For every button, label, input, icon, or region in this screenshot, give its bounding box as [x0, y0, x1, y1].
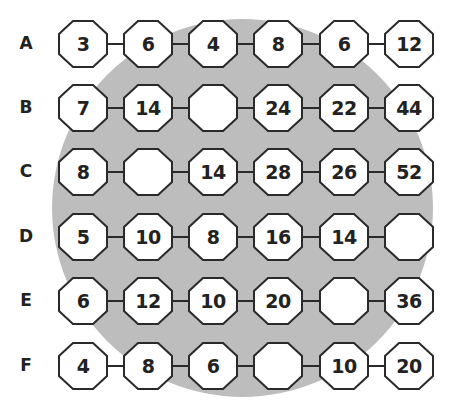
cell-value: 44 [384, 84, 434, 132]
cell-value: 10 [319, 342, 369, 390]
chain-connector [172, 236, 189, 238]
number-cell: 4 [188, 20, 238, 68]
number-cell: 22 [319, 84, 369, 132]
chain-connector [172, 107, 189, 109]
cell-value: 10 [123, 213, 173, 261]
chain-connector [302, 365, 320, 367]
chain-connector [302, 107, 320, 109]
chain-connector [237, 43, 254, 45]
chain-connector [172, 300, 189, 302]
cell-value: 7 [58, 84, 108, 132]
number-cell: 6 [188, 342, 238, 390]
number-cell: 44 [384, 84, 434, 132]
cell-value: 14 [188, 148, 238, 196]
blank-cell[interactable] [319, 277, 369, 325]
number-cell: 20 [253, 277, 303, 325]
blank-cell[interactable] [188, 84, 238, 132]
cell-value: 8 [123, 342, 173, 390]
number-cell: 7 [58, 84, 108, 132]
number-cell: 28 [253, 148, 303, 196]
row-label: A [18, 33, 34, 53]
chain-connector [107, 300, 124, 302]
chain-connector [302, 43, 320, 45]
puzzle-row-b: B714242244 [0, 84, 452, 132]
number-cell: 14 [123, 84, 173, 132]
number-cell: 3 [58, 20, 108, 68]
cell-value: 6 [188, 342, 238, 390]
cell-value: 4 [58, 342, 108, 390]
number-cell: 6 [319, 20, 369, 68]
cell-value: 52 [384, 148, 434, 196]
number-cell: 52 [384, 148, 434, 196]
cell-value: 36 [384, 277, 434, 325]
row-label: E [18, 290, 34, 310]
number-cell: 6 [123, 20, 173, 68]
number-cell: 8 [188, 213, 238, 261]
cell-value: 8 [58, 148, 108, 196]
chain-connector [237, 171, 254, 173]
number-cell: 8 [123, 342, 173, 390]
cell-value: 14 [319, 213, 369, 261]
cell-value: 5 [58, 213, 108, 261]
blank-cell[interactable] [253, 342, 303, 390]
chain-connector [172, 171, 189, 173]
row-label: D [18, 226, 34, 246]
chain-connector [237, 107, 254, 109]
number-cell: 5 [58, 213, 108, 261]
cell-value: 4 [188, 20, 238, 68]
cell-value: 28 [253, 148, 303, 196]
cell-value: 10 [188, 277, 238, 325]
cell-value [123, 148, 173, 196]
number-cell: 14 [319, 213, 369, 261]
puzzle-row-c: C814282652 [0, 148, 452, 196]
puzzle-row-a: A3648612 [0, 20, 452, 68]
number-cell: 16 [253, 213, 303, 261]
chain-connector [107, 236, 124, 238]
chain-connector [172, 365, 189, 367]
cell-value: 12 [384, 20, 434, 68]
number-cell: 6 [58, 277, 108, 325]
cell-value: 3 [58, 20, 108, 68]
number-cell: 36 [384, 277, 434, 325]
row-label: C [18, 161, 34, 181]
chain-connector [368, 236, 385, 238]
chain-connector [368, 300, 385, 302]
chain-connector [237, 365, 254, 367]
number-cell: 8 [58, 148, 108, 196]
number-cell: 10 [188, 277, 238, 325]
chain-connector [107, 107, 124, 109]
cell-value [188, 84, 238, 132]
cell-value: 14 [123, 84, 173, 132]
chain-connector [107, 365, 124, 367]
cell-value: 8 [188, 213, 238, 261]
number-cell: 4 [58, 342, 108, 390]
chain-connector [237, 236, 254, 238]
cell-value: 6 [319, 20, 369, 68]
number-cell: 10 [123, 213, 173, 261]
number-cell: 24 [253, 84, 303, 132]
row-label: B [18, 97, 34, 117]
chain-connector [302, 300, 320, 302]
chain-connector [368, 171, 385, 173]
cell-value: 20 [384, 342, 434, 390]
number-cell: 10 [319, 342, 369, 390]
chain-connector [107, 171, 124, 173]
cell-value: 22 [319, 84, 369, 132]
blank-cell[interactable] [123, 148, 173, 196]
cell-value [319, 277, 369, 325]
chain-connector [368, 43, 385, 45]
chain-connector [368, 107, 385, 109]
blank-cell[interactable] [384, 213, 434, 261]
chain-connector [237, 300, 254, 302]
puzzle-row-e: E612102036 [0, 277, 452, 325]
cell-value: 20 [253, 277, 303, 325]
number-cell: 26 [319, 148, 369, 196]
number-cell: 12 [384, 20, 434, 68]
cell-value: 8 [253, 20, 303, 68]
cell-value: 12 [123, 277, 173, 325]
cell-value: 16 [253, 213, 303, 261]
number-cell: 12 [123, 277, 173, 325]
chain-connector [302, 171, 320, 173]
background-circle [52, 19, 433, 397]
cell-value: 6 [123, 20, 173, 68]
